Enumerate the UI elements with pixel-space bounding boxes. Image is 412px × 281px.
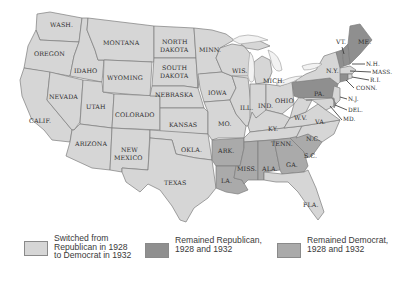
leader-ri	[352, 77, 369, 80]
label-del: DEL.	[348, 107, 363, 113]
label-nj: N.J.	[348, 96, 359, 103]
label-ky: KY.	[268, 125, 278, 132]
label-oregon: OREGON	[34, 50, 65, 57]
label-kansas: KANSAS	[169, 121, 197, 128]
legend-swatch-switched	[24, 241, 48, 256]
label-ill: ILL.	[240, 104, 253, 111]
label-tenn: TENN.	[271, 140, 293, 147]
label-ohio: OHIO	[275, 97, 294, 104]
label-dakota-n: DAKOTA	[160, 46, 189, 53]
label-minn: MINN.	[199, 46, 221, 53]
label-colorado: COLORADO	[115, 111, 155, 118]
legend-label-remained-democrat: Remained Democrat, 1928 and 1932	[307, 236, 388, 253]
label-nevada: NEVADA	[49, 93, 78, 100]
legend-item-switched: Switched from Republican in 1928 to Demo…	[24, 234, 131, 260]
label-idaho: IDAHO	[74, 67, 97, 74]
label-nc: N.C.	[306, 135, 320, 142]
label-fla: FLA.	[303, 201, 319, 208]
state-iowa	[198, 72, 236, 102]
legend-item-remained-democrat: Remained Democrat, 1928 and 1932	[277, 236, 388, 258]
legend-label-switched: Switched from Republican in 1928 to Demo…	[54, 234, 131, 260]
label-me: ME.	[358, 38, 371, 45]
state-rhode-island	[348, 74, 352, 79]
label-md: MD.	[343, 116, 356, 122]
label-mo: MO.	[218, 120, 232, 127]
legend-item-remained-republican: Remained Republican, 1928 and 1932	[145, 236, 262, 258]
state-arizona	[66, 124, 112, 170]
lake-michigan	[248, 52, 255, 82]
leader-nj	[340, 97, 347, 99]
legend-label-remained-republican: Remained Republican, 1928 and 1932	[175, 236, 262, 253]
label-wyoming: WYOMING	[107, 74, 143, 81]
legend-swatch-remained-democrat	[277, 243, 301, 258]
label-wis: WIS.	[232, 67, 247, 74]
label-arizona: ARIZONA	[74, 140, 107, 147]
label-ga: GA.	[286, 161, 298, 168]
label-mexico: MEXICO	[114, 154, 143, 161]
label-conn: CONN.	[356, 85, 377, 91]
label-nebraska: NEBRASKA	[155, 91, 193, 98]
leader-conn	[346, 80, 354, 88]
label-pa: PA.	[314, 90, 325, 97]
map-legend: Switched from Republican in 1928 to Demo…	[0, 234, 412, 281]
label-va: VA.	[314, 118, 326, 125]
label-vt: VT.	[335, 38, 346, 45]
label-nh: N.H.	[366, 61, 380, 67]
label-utah: UTAH	[86, 103, 106, 110]
state-florida	[264, 170, 324, 220]
label-ny: N.Y.	[326, 67, 339, 74]
label-ri: R.I.	[370, 77, 381, 83]
label-new: NEW	[121, 146, 138, 153]
label-okla: OKLA.	[181, 146, 202, 153]
legend-swatch-remained-republican	[145, 243, 169, 258]
label-ark: ARK.	[217, 147, 234, 154]
leader-del	[335, 105, 347, 110]
label-montana: MONTANA	[103, 39, 140, 46]
label-wv: W.V.	[294, 114, 307, 121]
label-south: SOUTH	[162, 64, 187, 71]
us-election-map: WASH. OREGON CALIF. IDAHO NEVADA UTAH AR…	[0, 0, 412, 232]
label-ind: IND.	[258, 102, 273, 109]
label-iowa: IOWA	[208, 89, 227, 96]
label-dakota-s: DAKOTA	[160, 72, 189, 79]
label-calif: CALIF.	[29, 117, 51, 124]
label-sc: S.C.	[304, 152, 317, 159]
label-mass: MASS.	[372, 69, 392, 75]
label-la: LA.	[221, 177, 232, 184]
label-mich: MICH.	[263, 77, 285, 84]
label-wash: WASH.	[50, 21, 73, 28]
label-north: NORTH	[162, 38, 188, 45]
state-massachusetts	[340, 66, 356, 74]
label-texas: TEXAS	[164, 179, 186, 186]
label-ala: ALA.	[261, 165, 278, 172]
label-miss: MISS.	[237, 165, 257, 172]
